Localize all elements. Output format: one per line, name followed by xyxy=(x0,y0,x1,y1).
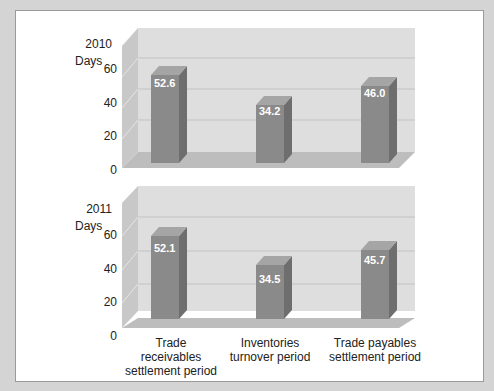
value-label: 52.1 xyxy=(154,242,175,254)
days-bar-charts: 52.6 34.2 46.0 2010 Days 60 40 20 0 xyxy=(0,0,494,391)
y-tick: 0 xyxy=(110,329,117,343)
value-label: 34.5 xyxy=(259,273,280,285)
y-tick: 40 xyxy=(104,96,118,110)
x-label-payables-2: settlement period xyxy=(329,350,421,364)
x-label-receivables-1: Trade xyxy=(156,336,187,350)
bar-2011-inventories xyxy=(256,256,292,319)
chart-title-2010: 2010 xyxy=(85,37,112,51)
y-tick: 60 xyxy=(104,62,118,76)
x-label-receivables-3: settlement period xyxy=(125,364,217,378)
chart-title-2011: 2011 xyxy=(86,202,112,216)
value-label: 45.7 xyxy=(364,254,385,266)
chart-2010: 52.6 34.2 46.0 2010 Days 60 40 20 0 xyxy=(75,28,415,177)
y-axis-label: Days xyxy=(75,54,102,68)
x-label-inventories-2: turnover period xyxy=(230,350,311,364)
x-label-receivables-2: receivables xyxy=(141,350,202,364)
x-label-payables-1: Trade payables xyxy=(334,336,416,350)
value-label: 34.2 xyxy=(259,105,280,117)
y-tick: 60 xyxy=(104,228,118,242)
value-label: 52.6 xyxy=(154,77,175,89)
bar-2011-receivables xyxy=(151,227,187,319)
value-label: 46.0 xyxy=(364,87,385,99)
side-wall xyxy=(122,186,138,328)
x-label-inventories-1: Inventories xyxy=(241,336,300,350)
chart-2011: 52.1 34.5 45.7 2011 Days 60 40 20 0 xyxy=(75,186,415,343)
y-tick: 20 xyxy=(104,129,118,143)
y-axis-label: Days xyxy=(75,219,102,233)
x-axis-labels: Trade receivables settlement period Inve… xyxy=(125,336,421,378)
y-tick: 20 xyxy=(104,295,118,309)
floor xyxy=(122,318,415,328)
bar-2011-payables xyxy=(361,241,397,319)
y-tick: 40 xyxy=(104,262,118,276)
y-tick: 0 xyxy=(110,163,117,177)
